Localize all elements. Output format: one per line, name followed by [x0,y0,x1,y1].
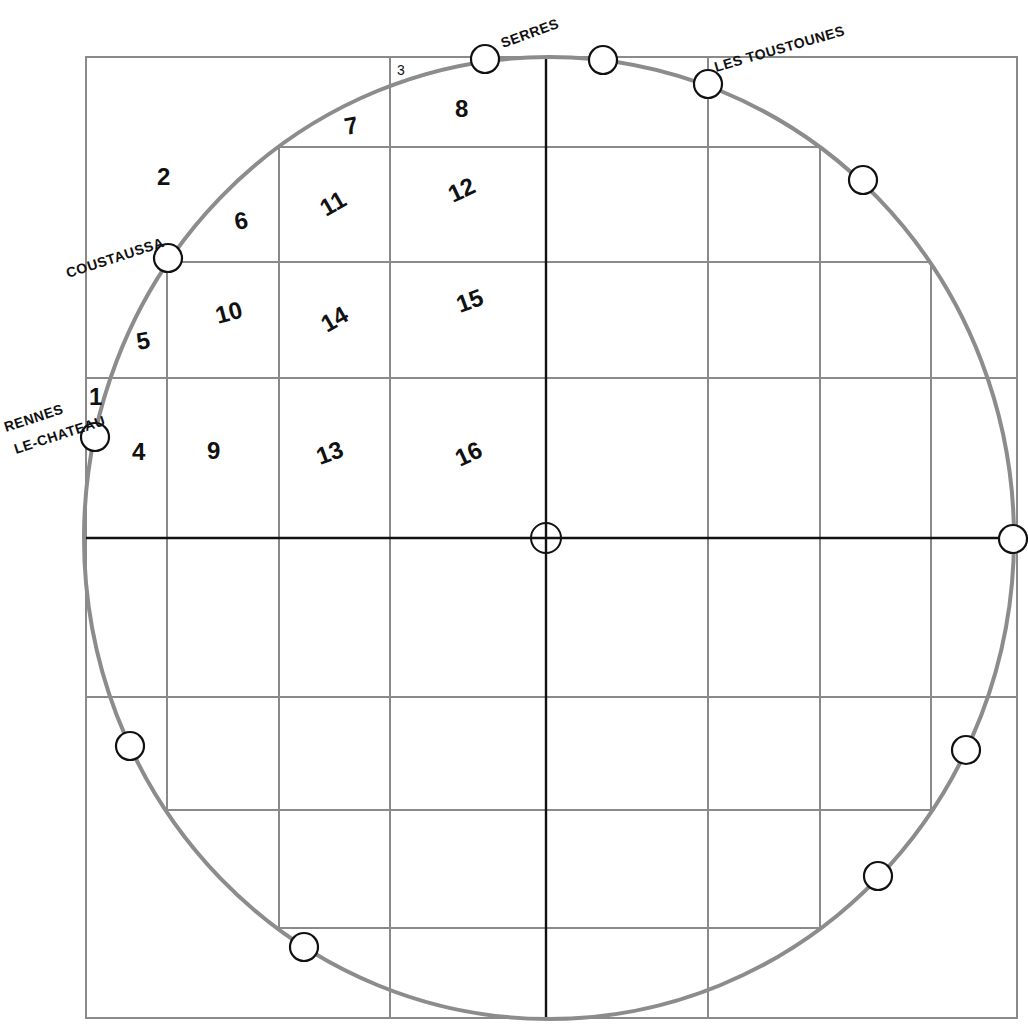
point-marker-icon [952,736,980,764]
cell-number-12: 12 [444,172,480,208]
point-marker-icon [116,732,144,760]
rennes-grid-map: 12345678910111213141516 SERRESLES TOUSTO… [0,0,1028,1028]
place-marker-icon [471,45,499,73]
cell-number-15: 15 [452,283,486,318]
point-marker-icon [290,933,318,961]
cell-number-16: 16 [451,436,487,472]
cell-number-13: 13 [312,435,346,470]
cell-number-1: 1 [89,383,102,410]
cell-number-2: 2 [157,163,170,190]
cell-number-11: 11 [315,185,350,221]
cell-number-7: 7 [342,111,360,140]
point-marker-icon [864,862,892,890]
cell-number-8: 8 [455,95,468,122]
place-label: LES TOUSTOUNES [712,22,846,75]
cell-number-14: 14 [316,300,353,337]
cell-number-10: 10 [212,296,245,329]
cell-number-6: 6 [232,206,250,235]
cell-number-4: 4 [132,438,146,465]
place-label: COUSTAUSSA [64,234,166,281]
cell-numbers: 12345678910111213141516 [89,62,487,472]
point-marker-icon [999,525,1027,553]
cell-number-9: 9 [207,437,220,464]
point-marker-icon [589,46,617,74]
cell-number-5: 5 [134,326,152,355]
place-markers [81,45,1027,961]
cell-number-3: 3 [397,62,405,78]
point-marker-icon [849,166,877,194]
place-label: SERRES [499,15,561,51]
